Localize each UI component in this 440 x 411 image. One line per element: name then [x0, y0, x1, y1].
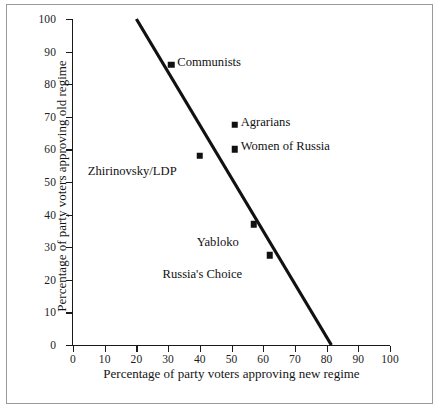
x-tick-label-70: 70 [289, 353, 301, 365]
y-axis-title-wrapper: Percentage of party voters approving old… [31, 0, 32, 1]
x-tick-10 [105, 346, 106, 352]
x-tick-label-20: 20 [131, 353, 143, 365]
x-tick-80 [327, 346, 328, 352]
x-tick-label-0: 0 [70, 353, 76, 365]
x-tick-label-90: 90 [352, 353, 364, 365]
x-tick-90 [358, 346, 359, 352]
chart-figure: 0102030405060708090100 01020304050607080… [0, 0, 440, 411]
x-tick-label-100: 100 [381, 353, 399, 365]
x-tick-70 [295, 346, 296, 352]
x-tick-label-60: 60 [257, 353, 269, 365]
x-tick-100 [390, 346, 391, 352]
y-axis-line [72, 19, 73, 346]
data-point-marker [231, 146, 238, 153]
plot-area: 0102030405060708090100 01020304050607080… [73, 19, 390, 345]
x-tick-20 [136, 346, 137, 352]
data-point-marker [250, 221, 257, 228]
data-point-marker [168, 61, 175, 68]
y-axis-title: Percentage of party voters approving old… [54, 21, 70, 351]
x-tick-label-10: 10 [99, 353, 111, 365]
x-tick-50 [232, 346, 233, 352]
y-tick-100: 100 [66, 19, 72, 20]
data-point-label: Agrarians [241, 116, 291, 129]
data-point-label: Zhirinovsky/LDP [88, 165, 177, 178]
x-tick-label-80: 80 [321, 353, 333, 365]
x-tick-40 [200, 346, 201, 352]
data-point-marker [231, 122, 238, 129]
x-tick-label-50: 50 [226, 353, 238, 365]
x-axis-title: Percentage of party voters approving new… [73, 366, 390, 382]
data-point-marker [197, 153, 204, 160]
x-tick-60 [263, 346, 264, 352]
data-point-label: Yabloko [197, 236, 239, 249]
x-tick-label-40: 40 [194, 353, 206, 365]
x-tick-0 [73, 346, 74, 352]
x-tick-label-30: 30 [162, 353, 174, 365]
data-point-label: Communists [177, 56, 241, 69]
data-point-label: Russia's Choice [163, 268, 243, 281]
data-point-label: Women of Russia [241, 140, 330, 153]
x-tick-30 [168, 346, 169, 352]
data-point-marker [266, 252, 273, 259]
